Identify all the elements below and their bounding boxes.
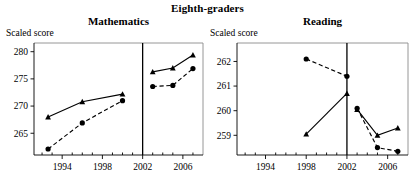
x-tick-label: 2006 bbox=[173, 162, 192, 172]
y-tick-label: 270 bbox=[14, 101, 29, 111]
y-tick-label: 265 bbox=[14, 129, 29, 139]
y-tick-label: 260 bbox=[217, 106, 232, 116]
data-point-circle bbox=[45, 146, 50, 151]
x-tick-label: 1998 bbox=[93, 162, 112, 172]
plot-surface: 2652702752801994199820022006259260261262… bbox=[0, 0, 415, 183]
x-tick-label: 2006 bbox=[378, 162, 397, 172]
x-tick-label: 1998 bbox=[297, 162, 316, 172]
data-point-circle bbox=[150, 84, 155, 89]
y-tick-label: 259 bbox=[217, 131, 232, 141]
data-point-circle bbox=[120, 98, 125, 103]
series-line-dashed-circle-pre-2002 bbox=[306, 59, 347, 76]
data-point-triangle bbox=[344, 91, 350, 96]
data-point-circle bbox=[344, 74, 349, 79]
data-point-circle bbox=[170, 83, 175, 88]
x-tick-label: 1994 bbox=[53, 162, 72, 172]
data-point-triangle bbox=[190, 52, 196, 57]
chart-root: Eighth-graders Mathematics Reading Scale… bbox=[0, 0, 415, 183]
panel-mathematics: 2652702752801994199820022006 bbox=[14, 43, 203, 172]
data-point-triangle bbox=[170, 65, 176, 70]
series-line-solid-triangle-pre-2002 bbox=[306, 93, 347, 134]
series-line-solid-triangle-pre-2002 bbox=[48, 94, 122, 117]
y-tick-label: 275 bbox=[14, 74, 29, 84]
x-tick-label: 1994 bbox=[256, 162, 275, 172]
x-tick-label: 2002 bbox=[133, 162, 152, 172]
series-line-dashed-circle-pre-2002 bbox=[48, 101, 122, 149]
panel-axes bbox=[237, 43, 408, 155]
y-tick-label: 280 bbox=[14, 47, 29, 57]
data-point-triangle bbox=[120, 91, 126, 96]
data-point-circle bbox=[80, 120, 85, 125]
data-point-circle bbox=[190, 66, 195, 71]
data-point-circle bbox=[304, 56, 309, 61]
data-point-triangle bbox=[395, 125, 401, 130]
data-point-triangle bbox=[45, 114, 51, 119]
data-point-circle bbox=[395, 149, 400, 154]
y-tick-label: 262 bbox=[217, 57, 232, 67]
panel-axes bbox=[34, 43, 203, 155]
panel-reading: 2592602612621994199820022006 bbox=[217, 43, 408, 172]
y-tick-label: 261 bbox=[217, 81, 232, 91]
x-tick-label: 2002 bbox=[337, 162, 356, 172]
data-point-circle bbox=[375, 145, 380, 150]
series-line-solid-triangle-post-2002 bbox=[357, 109, 398, 135]
